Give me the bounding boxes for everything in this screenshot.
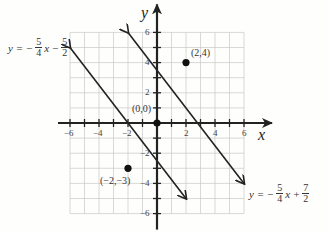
fraction: 52: [61, 37, 68, 58]
y-tick-label: 2: [145, 87, 150, 97]
y-tick-label: 4: [145, 57, 150, 67]
y-tick-label: −2: [140, 148, 150, 158]
point-label-neg2-neg3: (−2,−3): [100, 175, 130, 186]
point-label-origin: (0,0): [132, 103, 151, 114]
data-point: [153, 119, 160, 126]
x-tick-label: −4: [93, 128, 103, 138]
fraction: 54: [276, 183, 283, 204]
y-tick-label: −6: [140, 208, 150, 218]
fraction: 72: [302, 183, 309, 204]
y-tick-label: −4: [140, 178, 150, 188]
line1-equation-label: y = − 54 x − 52: [8, 37, 68, 58]
y-axis-label: y: [141, 4, 148, 22]
axes: [58, 4, 272, 229]
y-tick-label: 6: [145, 27, 150, 37]
x-tick-label: −2: [122, 128, 132, 138]
fraction: 54: [35, 37, 42, 58]
x-axis-label: x: [258, 126, 265, 144]
x-tick-label: 4: [213, 128, 218, 138]
data-point: [124, 165, 131, 172]
line2-equation-label: y = − 54 x + 72: [249, 183, 309, 204]
data-point: [182, 59, 189, 66]
x-tick-label: 6: [242, 128, 247, 138]
x-tick-label: 2: [184, 128, 189, 138]
x-tick-label: −6: [64, 128, 74, 138]
point-label-2-4: (2,4): [191, 47, 210, 58]
